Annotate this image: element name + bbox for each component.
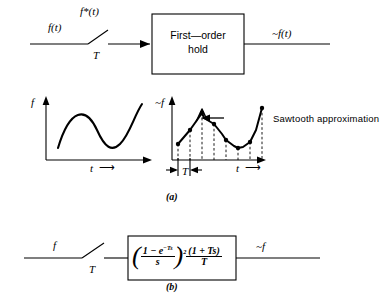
sample-gridlines <box>178 108 262 160</box>
figure-first-order-hold: f(t) f*(t) T First—order hold ~f(t) f t … <box>0 0 380 303</box>
input-signal-label-a: f(t) <box>48 22 61 33</box>
sampler-period-label-a: T <box>93 50 99 61</box>
input-plot-x-arrow: ⟶ <box>99 162 115 173</box>
output-signal-label-b: ~f <box>256 241 265 252</box>
input-plot-y-label: f <box>31 97 34 108</box>
interval-arrow-right <box>190 167 198 173</box>
second-fraction-numerator: (1 + Ts) <box>186 246 221 257</box>
first-fraction-numerator: 1 − e−Ts <box>141 246 175 257</box>
input-arrowhead-a <box>140 40 150 48</box>
close-paren: ) <box>175 243 184 269</box>
sampler-arm-b <box>82 243 104 258</box>
sampler-arm-a <box>88 30 108 44</box>
caption-a: (a) <box>166 192 178 202</box>
sample-points <box>176 106 264 150</box>
open-paren: ( <box>132 243 141 269</box>
second-fraction: (1 + Ts)T <box>186 246 221 267</box>
sampled-signal-label-a: f*(t) <box>80 6 99 17</box>
first-fraction: 1 − e−Tss <box>141 246 175 267</box>
interval-label-T: T <box>182 166 188 177</box>
input-plot-x-label: t <box>90 163 93 174</box>
sawtooth-annotation-text: Sawtooth approximation <box>273 114 379 124</box>
output-plot-y-label: ~f <box>155 97 164 108</box>
transfer-function-expression: (1 − e−Tss)2(1 + Ts)T <box>132 243 222 269</box>
input-signal-label-b: f <box>53 240 56 251</box>
output-signal-label-a: ~f(t) <box>272 28 291 39</box>
sampler-period-label-b: T <box>89 264 95 275</box>
output-plot-x-arrow: ⟶ <box>245 162 261 173</box>
block-label-line1: First—order <box>166 30 230 41</box>
output-plot-x-label: t <box>236 163 239 174</box>
second-fraction-denominator: T <box>186 257 221 267</box>
caption-b: (b) <box>166 282 178 292</box>
block-label-line2: hold <box>166 44 230 55</box>
exponent-minus-Ts: −Ts <box>163 243 172 250</box>
interval-arrow-left <box>170 167 178 173</box>
first-fraction-denominator: s <box>141 257 175 267</box>
input-waveform-curve <box>58 104 142 148</box>
block-diagram-b-wires <box>24 243 128 258</box>
